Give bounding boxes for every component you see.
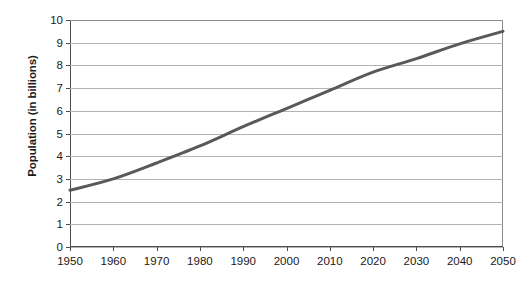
- x-tick-label: 2040: [447, 255, 473, 267]
- x-tick-label: 1950: [57, 255, 83, 267]
- population-line-chart: Population (in billions) 012345678910 19…: [0, 0, 525, 287]
- y-axis-title: Population (in billions): [26, 36, 38, 196]
- series-world-population: [70, 20, 503, 247]
- y-tick-label: 2: [57, 196, 63, 208]
- x-tick-label: 1970: [144, 255, 170, 267]
- y-tick-label: 7: [57, 82, 63, 94]
- y-tick-label: 8: [57, 59, 63, 71]
- plot-area: 012345678910 195019601970198019902000201…: [70, 20, 503, 247]
- x-tick-mark: [416, 247, 417, 251]
- x-tick-mark: [330, 247, 331, 251]
- x-tick-label: 2050: [490, 255, 516, 267]
- y-tick-label: 0: [57, 241, 63, 253]
- y-tick-label: 1: [57, 218, 63, 230]
- y-tick-label: 4: [57, 150, 63, 162]
- x-tick-mark: [373, 247, 374, 251]
- x-tick-mark: [157, 247, 158, 251]
- y-tick-label: 10: [50, 14, 63, 26]
- x-tick-mark: [200, 247, 201, 251]
- x-tick-label: 1990: [230, 255, 256, 267]
- x-tick-mark: [503, 247, 504, 251]
- x-tick-label: 1960: [101, 255, 127, 267]
- x-tick-label: 2030: [404, 255, 430, 267]
- x-tick-mark: [460, 247, 461, 251]
- y-tick-label: 6: [57, 105, 63, 117]
- x-tick-mark: [113, 247, 114, 251]
- y-tick-label: 3: [57, 173, 63, 185]
- x-tick-label: 1980: [187, 255, 213, 267]
- x-tick-mark: [243, 247, 244, 251]
- y-tick-label: 5: [57, 128, 63, 140]
- x-tick-label: 2000: [274, 255, 300, 267]
- x-tick-label: 2020: [360, 255, 386, 267]
- x-tick-label: 2010: [317, 255, 343, 267]
- x-tick-mark: [70, 247, 71, 251]
- x-tick-mark: [287, 247, 288, 251]
- y-tick-label: 9: [57, 37, 63, 49]
